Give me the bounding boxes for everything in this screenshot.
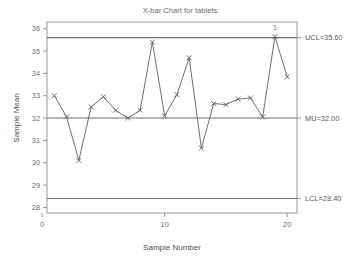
violation-annotations: 1 [273, 23, 277, 32]
data-point-marker [101, 94, 106, 99]
y-tick-label: 33 [32, 91, 40, 100]
plot-frame [47, 22, 297, 213]
y-tick-label: 34 [32, 69, 40, 78]
y-tick-label: 28 [32, 203, 40, 212]
y-tick-label: 31 [32, 136, 40, 145]
violation-label: 1 [273, 23, 277, 32]
x-axis-title-label: Sample Number [143, 243, 201, 252]
sample-mean-markers [52, 34, 290, 163]
lcl-label: LCL=28.40 [305, 194, 341, 203]
sample-mean-line [54, 37, 287, 161]
x-axis-ticks: 01020 [40, 213, 291, 229]
data-point-marker [113, 108, 118, 113]
data-point-marker [52, 93, 57, 98]
x-tick-label: 0 [40, 220, 44, 229]
y-tick-label: 30 [32, 158, 40, 167]
chart-canvas: X-bar Chart for tablets Sample Mean Samp… [0, 0, 361, 258]
y-tick-label: 29 [32, 181, 40, 190]
center-line-label: MU=32.00 [305, 114, 339, 123]
x-tick-label: 10 [161, 220, 169, 229]
data-point-marker [175, 92, 180, 97]
xbar-control-chart: X-bar Chart for tablets Sample Mean Samp… [0, 0, 361, 258]
ucl-label: UCL=35.60 [305, 33, 343, 42]
data-point-marker [285, 74, 290, 79]
data-point-marker [64, 115, 69, 120]
y-axis-title: Sample Mean [12, 93, 21, 142]
y-tick-label: 32 [32, 114, 40, 123]
control-limit-labels: UCL=35.60MU=32.00LCL=28.40 [305, 33, 343, 203]
y-tick-label: 35 [32, 47, 40, 56]
x-tick-label: 20 [283, 220, 291, 229]
y-tick-label: 36 [32, 24, 40, 33]
page-title: X-bar Chart for tablets [143, 6, 218, 15]
y-axis-title-label: Sample Mean [12, 93, 21, 142]
y-axis-ticks: 282930313233343536 [32, 24, 47, 212]
